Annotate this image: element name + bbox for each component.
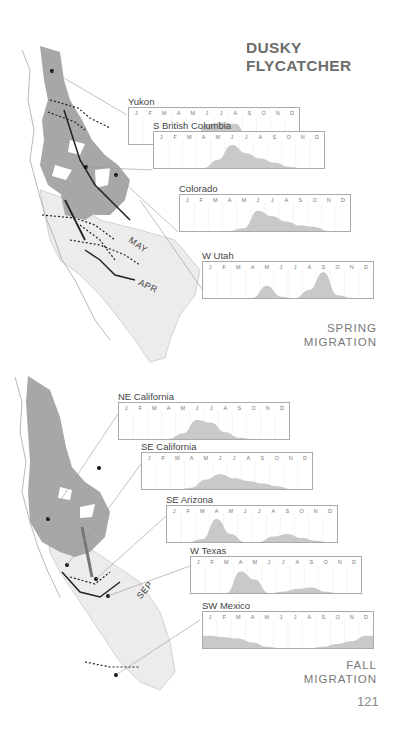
svg-text:O: O xyxy=(251,405,256,411)
svg-text:O: O xyxy=(323,559,328,565)
svg-text:J: J xyxy=(231,134,234,140)
svg-text:S: S xyxy=(310,559,314,565)
svg-text:F: F xyxy=(139,405,143,411)
svg-text:J: J xyxy=(160,134,163,140)
svg-text:D: D xyxy=(352,559,356,565)
svg-text:F: F xyxy=(223,264,227,270)
svg-text:J: J xyxy=(197,559,200,565)
svg-text:J: J xyxy=(196,405,199,411)
svg-text:A: A xyxy=(223,405,227,411)
svg-text:M: M xyxy=(228,508,233,514)
svg-text:F: F xyxy=(162,455,166,461)
svg-text:F: F xyxy=(187,508,191,514)
svg-text:J: J xyxy=(219,455,222,461)
chart-title: W Texas xyxy=(190,545,226,556)
svg-text:J: J xyxy=(209,264,212,270)
svg-text:J: J xyxy=(206,110,209,116)
svg-text:S: S xyxy=(286,508,290,514)
svg-text:J: J xyxy=(280,614,283,620)
svg-text:A: A xyxy=(307,614,311,620)
svg-text:M: M xyxy=(215,134,220,140)
svg-text:N: N xyxy=(327,197,331,203)
svg-text:D: D xyxy=(315,134,319,140)
svg-text:A: A xyxy=(251,264,255,270)
svg-text:A: A xyxy=(271,508,275,514)
svg-text:A: A xyxy=(307,264,311,270)
chart-title: Yukon xyxy=(128,96,154,107)
svg-text:S: S xyxy=(322,264,326,270)
chart-title: SE California xyxy=(141,441,196,452)
spring-migration-label: SPRING MIGRATION xyxy=(304,321,377,349)
svg-text:D: D xyxy=(341,197,345,203)
chart-title: Colorado xyxy=(179,183,218,194)
svg-text:A: A xyxy=(239,559,243,565)
svg-text:M: M xyxy=(224,559,229,565)
svg-text:M: M xyxy=(264,614,269,620)
svg-text:J: J xyxy=(271,197,274,203)
svg-text:O: O xyxy=(335,614,340,620)
svg-text:O: O xyxy=(274,455,279,461)
svg-text:D: D xyxy=(328,508,332,514)
chart-title: S British Columbia xyxy=(153,120,231,131)
svg-text:F: F xyxy=(200,197,204,203)
chart-title: SW Mexico xyxy=(202,600,250,611)
svg-text:A: A xyxy=(190,455,194,461)
svg-text:A: A xyxy=(177,110,181,116)
svg-text:S: S xyxy=(273,134,277,140)
chart-title: NE California xyxy=(118,391,174,402)
svg-text:N: N xyxy=(350,264,354,270)
svg-text:S: S xyxy=(261,455,265,461)
svg-text:J: J xyxy=(173,508,176,514)
page-number: 121 xyxy=(357,694,379,709)
svg-text:J: J xyxy=(282,559,285,565)
svg-text:M: M xyxy=(264,264,269,270)
svg-text:A: A xyxy=(284,197,288,203)
svg-text:N: N xyxy=(350,614,354,620)
svg-text:O: O xyxy=(261,110,266,116)
svg-text:A: A xyxy=(251,614,255,620)
svg-text:N: N xyxy=(314,508,318,514)
svg-text:O: O xyxy=(299,508,304,514)
svg-text:M: M xyxy=(200,508,205,514)
svg-text:J: J xyxy=(245,134,248,140)
svg-text:J: J xyxy=(186,197,189,203)
fall-migration-label: FALL MIGRATION xyxy=(304,658,377,686)
svg-text:J: J xyxy=(220,110,223,116)
svg-text:J: J xyxy=(294,264,297,270)
svg-text:D: D xyxy=(364,264,368,270)
svg-text:J: J xyxy=(135,110,138,116)
svg-text:M: M xyxy=(236,614,241,620)
svg-text:D: D xyxy=(280,405,284,411)
svg-text:N: N xyxy=(289,455,293,461)
svg-text:A: A xyxy=(202,134,206,140)
svg-text:J: J xyxy=(258,508,261,514)
svg-text:F: F xyxy=(174,134,178,140)
svg-text:N: N xyxy=(301,134,305,140)
svg-text:A: A xyxy=(215,508,219,514)
svg-text:O: O xyxy=(335,264,340,270)
svg-text:M: M xyxy=(152,405,157,411)
svg-text:D: D xyxy=(364,614,368,620)
svg-text:A: A xyxy=(233,110,237,116)
svg-text:M: M xyxy=(203,455,208,461)
svg-text:M: M xyxy=(175,455,180,461)
svg-text:A: A xyxy=(258,134,262,140)
svg-text:M: M xyxy=(252,559,257,565)
svg-text:J: J xyxy=(244,508,247,514)
svg-text:A: A xyxy=(167,405,171,411)
svg-text:M: M xyxy=(162,110,167,116)
svg-text:D: D xyxy=(290,110,294,116)
svg-text:N: N xyxy=(338,559,342,565)
svg-text:S: S xyxy=(299,197,303,203)
svg-text:J: J xyxy=(125,405,128,411)
svg-text:M: M xyxy=(213,197,218,203)
svg-text:S: S xyxy=(322,614,326,620)
svg-text:F: F xyxy=(223,614,227,620)
page-title: DUSKY FLYCATCHER xyxy=(246,39,405,75)
svg-text:M: M xyxy=(236,264,241,270)
svg-text:J: J xyxy=(280,264,283,270)
svg-text:J: J xyxy=(257,197,260,203)
svg-text:N: N xyxy=(276,110,280,116)
svg-text:F: F xyxy=(149,110,153,116)
svg-text:N: N xyxy=(266,405,270,411)
